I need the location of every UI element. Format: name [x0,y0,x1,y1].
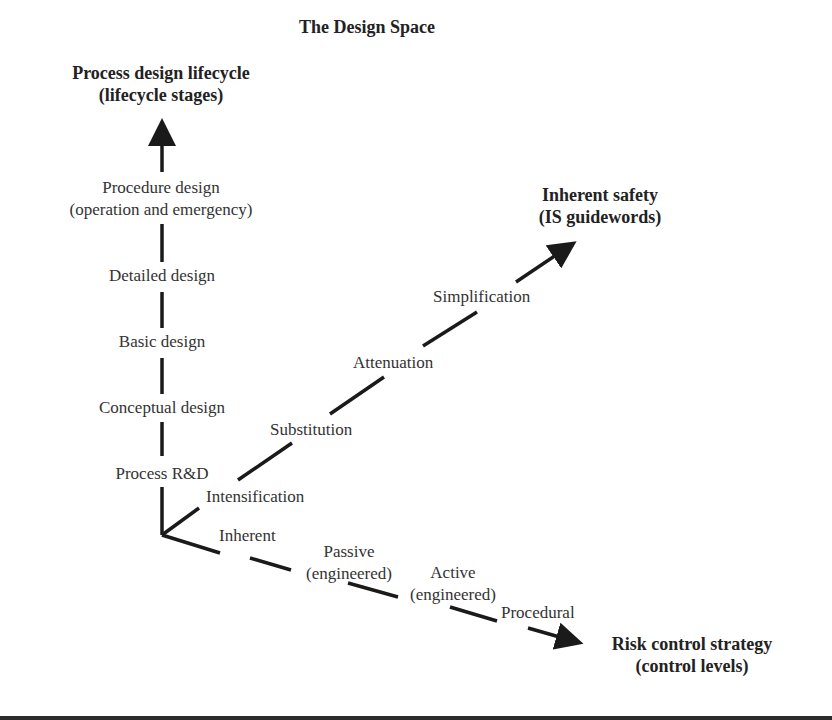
diagonal-axis-segment [423,312,477,346]
horizontal-axis-segment [162,535,220,553]
diagonal-axis-segment [162,508,199,535]
level-procedural: Procedural [501,602,575,624]
diagram-title: The Design Space [299,16,435,38]
stage-basic-design: Basic design [119,331,205,353]
guideword-substitution: Substitution [270,419,352,441]
level-label: Active [410,562,496,584]
horizontal-axis-title-line2: (control levels) [612,655,773,677]
level-inherent: Inherent [219,525,276,547]
stage-label: Procedure design [70,177,253,199]
horizontal-axis-title: Risk control strategy (control levels) [612,633,773,677]
guideword-intensification: Intensification [206,486,304,508]
stage-sublabel: (operation and emergency) [70,199,253,221]
level-label: Passive [306,541,392,563]
horizontal-axis-segment [250,558,291,570]
stage-procedure-design: Procedure design (operation and emergenc… [70,177,253,221]
vertical-axis-title: Process design lifecycle (lifecycle stag… [72,62,250,106]
guideword-attenuation: Attenuation [353,352,433,374]
guideword-simplification: Simplification [433,286,530,308]
horizontal-axis-title-line1: Risk control strategy [612,633,773,655]
level-active: Active (engineered) [410,562,496,606]
stage-conceptual-design: Conceptual design [99,397,225,419]
diagonal-axis-segment [330,377,384,414]
diagonal-axis-title: Inherent safety (IS guidewords) [539,184,662,228]
bottom-border [0,716,832,720]
level-passive: Passive (engineered) [306,541,392,585]
diagonal-axis-title-line2: (IS guidewords) [539,206,662,228]
stage-process-rnd: Process R&D [115,463,208,485]
level-sublabel: (engineered) [410,584,496,606]
level-sublabel: (engineered) [306,563,392,585]
vertical-axis-title-line1: Process design lifecycle [72,62,250,84]
horizontal-axis-segment [450,607,497,621]
diagonal-axis-title-line1: Inherent safety [539,184,662,206]
vertical-axis-title-line2: (lifecycle stages) [72,84,250,106]
diagonal-axis-arrow [516,249,565,282]
horizontal-axis-arrow [528,628,570,640]
diagonal-axis-segment [238,443,292,480]
horizontal-axis-segment [348,583,398,597]
stage-detailed-design: Detailed design [109,265,215,287]
